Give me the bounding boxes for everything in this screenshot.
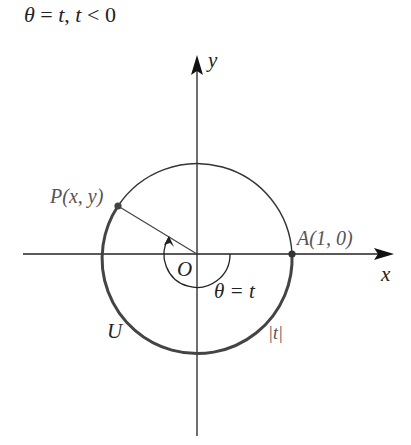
point-P-dot [114, 202, 121, 209]
point-A-dot [288, 250, 295, 257]
circle-label-U: U [107, 319, 124, 343]
unit-circle-thin-arc [118, 164, 292, 254]
y-axis-label: y [206, 48, 218, 72]
x-axis-label: x [380, 262, 391, 286]
arc-length-label: |t| [268, 323, 283, 343]
point-P-label: P(x, y) [49, 185, 104, 208]
origin-label: O [177, 257, 192, 281]
radius-OP [118, 206, 197, 254]
point-A-label: A(1, 0) [295, 227, 353, 250]
x-axis [23, 248, 394, 260]
y-axis [191, 55, 203, 436]
unit-circle-diagram: y x P(x, y) A(1, 0) O θ = t U |t| [0, 0, 411, 445]
angle-label: θ = t [214, 279, 256, 303]
